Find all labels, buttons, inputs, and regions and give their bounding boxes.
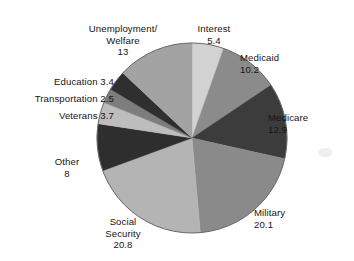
slice-label-name: Medicare — [268, 112, 308, 123]
slice-label-value: 8 — [28, 168, 106, 179]
slice-label-name: Medicaid — [240, 52, 279, 63]
slice-label-social-security: Social Security 20.8 — [78, 205, 168, 261]
slice-label-veterans: Veterans 3.7 — [4, 110, 114, 121]
slice-label-name: Interest — [198, 23, 231, 34]
slice-label-value: 20.1 — [254, 219, 342, 230]
slice-label-name: Unemployment/ Welfare — [89, 23, 157, 45]
slice-label-name: Other — [55, 156, 80, 167]
slice-label-value: 12.9 — [268, 124, 352, 135]
pie-chart-figure: Unemployment/ Welfare 13 Interest 5.4 Me… — [0, 0, 354, 261]
slice-label-name: Military — [254, 207, 285, 218]
slice-label-unemployment-welfare: Unemployment/ Welfare 13 — [62, 12, 184, 69]
slice-label-medicare: Medicare 12.9 — [268, 101, 352, 147]
scan-artifact — [318, 148, 332, 157]
slice-label-education: Education 3.4 — [14, 76, 114, 87]
slice-label-name: Social Security — [105, 216, 140, 238]
slice-label-military: Military 20.1 — [254, 196, 342, 242]
slice-label-other: Other 8 — [28, 145, 106, 191]
slice-label-value: 13 — [62, 46, 184, 57]
slice-label-value: 20.8 — [78, 239, 168, 250]
slice-label-medicaid: Medicaid 10.2 — [240, 41, 340, 87]
slice-label-transportation: Transportation 2.5 — [0, 93, 114, 104]
slice-label-value: 10.2 — [240, 64, 340, 75]
